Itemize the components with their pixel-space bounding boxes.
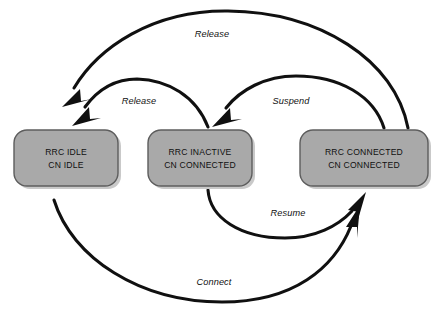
state-box-rrc-connected-line1: RRC CONNECTED [325, 147, 403, 157]
transition-release-connected-to-idle: Release [62, 11, 408, 128]
transition-suspend-connected-to-inactive-label: Suspend [273, 96, 311, 106]
state-box-rrc-inactive[interactable]: RRC INACTIVE CN CONNECTED [148, 130, 255, 189]
state-box-rrc-inactive-line1: RRC INACTIVE [168, 147, 231, 157]
transition-suspend-connected-to-inactive-arrowhead [212, 108, 242, 127]
transition-resume-inactive-to-connected-label: Resume [271, 208, 306, 218]
state-box-rrc-idle-line2: CN IDLE [48, 160, 83, 170]
state-box-rrc-idle-line1: RRC IDLE [45, 147, 87, 157]
state-box-rrc-connected[interactable]: RRC CONNECTED CN CONNECTED [300, 130, 431, 189]
state-box-rrc-inactive-body [148, 130, 252, 186]
transition-connect-idle-to-connected: Connect [54, 200, 360, 302]
state-box-rrc-connected-body [300, 130, 428, 186]
transition-release-inactive-to-idle-label: Release [122, 96, 156, 106]
state-box-rrc-connected-line2: CN CONNECTED [328, 160, 400, 170]
transition-connect-idle-to-connected-label: Connect [197, 277, 232, 287]
transition-release-connected-to-idle-path [74, 11, 408, 128]
state-box-rrc-idle[interactable]: RRC IDLE CN IDLE [14, 130, 121, 189]
transition-release-inactive-to-idle: Release [72, 79, 208, 127]
diagram-canvas: Release Release Suspend Resume Connect [0, 0, 440, 317]
state-box-rrc-inactive-line2: CN CONNECTED [164, 160, 236, 170]
transition-resume-inactive-to-connected: Resume [208, 190, 366, 238]
transition-release-connected-to-idle-label: Release [195, 29, 229, 39]
state-box-rrc-idle-body [14, 130, 118, 186]
state-transition-diagram: Release Release Suspend Resume Connect [0, 0, 440, 317]
transition-release-inactive-to-idle-arrowhead [72, 107, 101, 126]
transition-suspend-connected-to-inactive: Suspend [212, 76, 384, 128]
